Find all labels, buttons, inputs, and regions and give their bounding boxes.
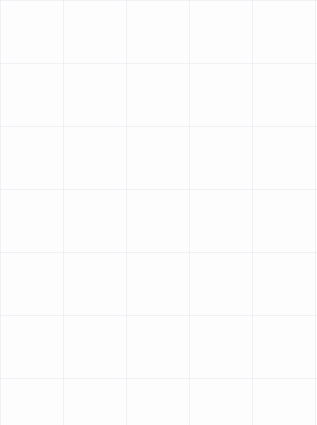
drawing-sheet	[0, 0, 317, 425]
sketch-canvas	[0, 0, 317, 425]
